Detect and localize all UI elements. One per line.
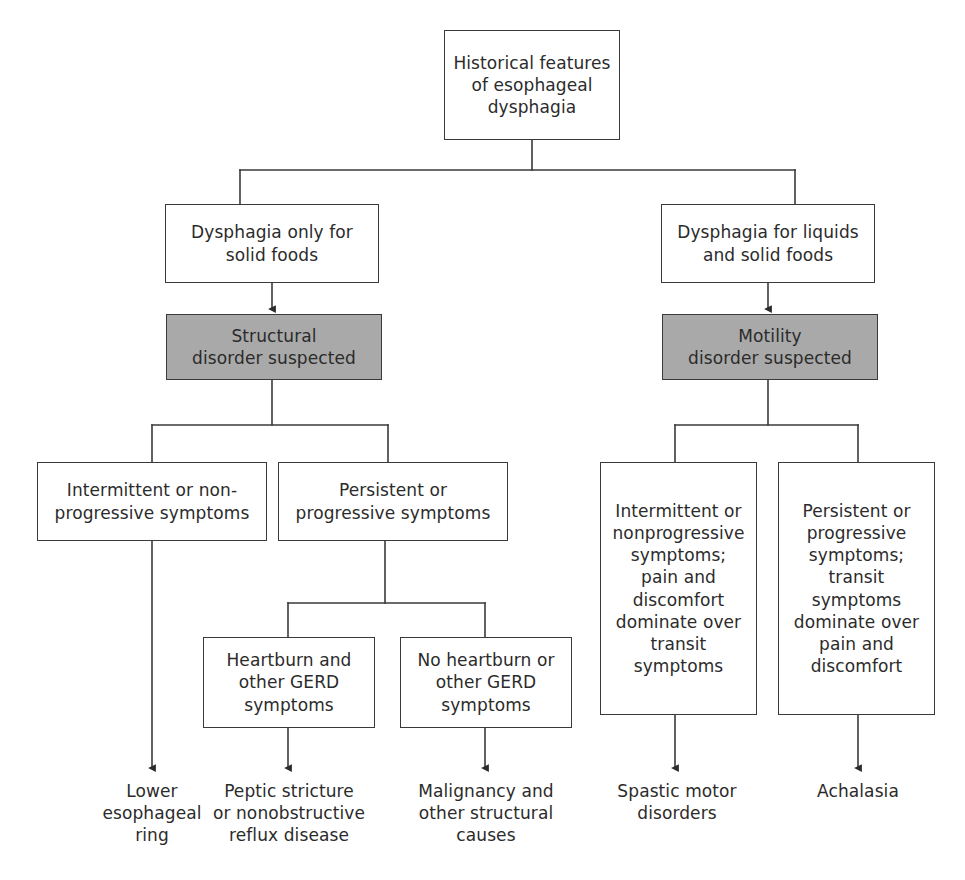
outcome-spastic-motor-disorders: Spastic motor disorders — [598, 780, 756, 864]
node-root-historical-features[interactable]: Historical features of esophageal dyspha… — [444, 30, 620, 140]
flowchart-canvas: Historical features of esophageal dyspha… — [0, 0, 965, 880]
node-motility-persistent-progressive[interactable]: Persistent or progressive symptoms; tran… — [778, 462, 935, 715]
node-intermittent-or-nonprogressive-symptoms[interactable]: Intermittent or non- progressive symptom… — [37, 462, 267, 541]
node-structural-disorder-suspected[interactable]: Structural disorder suspected — [166, 314, 382, 380]
outcome-malignancy-and-other-structural-causes: Malignancy and other structural causes — [397, 780, 575, 864]
outcome-peptic-stricture-or-nonobstructive-reflux-disease: Peptic stricture or nonobstructive reflu… — [196, 780, 382, 864]
outcome-achalasia: Achalasia — [782, 780, 934, 864]
node-no-heartburn-or-other-gerd-symptoms[interactable]: No heartburn or other GERD symptoms — [400, 637, 572, 728]
node-dysphagia-solid-foods-only[interactable]: Dysphagia only for solid foods — [165, 204, 379, 283]
node-motility-disorder-suspected[interactable]: Motility disorder suspected — [662, 314, 878, 380]
node-heartburn-and-other-gerd-symptoms[interactable]: Heartburn and other GERD symptoms — [203, 637, 375, 728]
node-persistent-or-progressive-symptoms[interactable]: Persistent or progressive symptoms — [278, 462, 508, 541]
node-motility-intermittent-nonprogressive[interactable]: Intermittent or nonprogressive symptoms;… — [600, 462, 757, 715]
node-dysphagia-liquids-and-solids[interactable]: Dysphagia for liquids and solid foods — [661, 204, 875, 283]
